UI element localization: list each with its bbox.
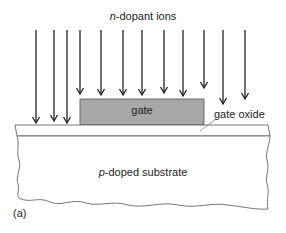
- arrow-icon: [201, 30, 208, 88]
- arrow-icon: [161, 30, 168, 93]
- gate-label: gate: [80, 104, 204, 116]
- arrow-icon: [242, 30, 249, 99]
- arrow-icon: [180, 30, 187, 96]
- arrow-icon: [33, 30, 40, 123]
- arrow-icon: [220, 30, 227, 104]
- arrow-icon: [51, 30, 58, 121]
- arrow-icon: [139, 30, 146, 95]
- arrow-icon: [64, 30, 71, 123]
- gate-oxide-label: gate oxide: [214, 108, 265, 120]
- title-n-dopant-ions: n-dopant ions: [0, 10, 286, 22]
- panel-label: (a): [13, 207, 26, 219]
- gate-oxide-layer: [15, 125, 270, 136]
- arrow-icon: [120, 30, 127, 95]
- arrow-icon: [98, 30, 105, 95]
- arrow-icon: [77, 30, 84, 94]
- substrate-label: p-doped substrate: [0, 166, 286, 178]
